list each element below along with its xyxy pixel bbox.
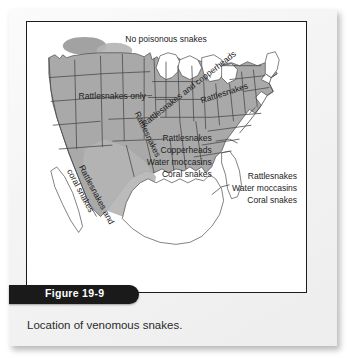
figure-number-badge: Figure 19-9 [9, 285, 139, 304]
map-label-southeast-line-3: Water moccasins [147, 157, 212, 167]
region-white-south-border [122, 175, 223, 244]
map-label-florida-line-3: Coral snakes [247, 195, 297, 205]
figure-caption: Location of venomous snakes. [27, 319, 327, 331]
map-label-florida-line-2: Water moccasins [232, 183, 297, 193]
us-venomous-snake-map: No poisonous snakes Rattlesnakes only Ra… [27, 22, 306, 292]
map-label-florida-line-1: Rattlesnakes [248, 171, 297, 181]
figure-number-label: Figure 19-9 [45, 287, 104, 299]
screenshot-root: No poisonous snakes Rattlesnakes only Ra… [0, 0, 347, 358]
map-label-no-poisonous-snakes: No poisonous snakes [125, 34, 206, 44]
map-label-southeast-line-1: Rattlesnakes [162, 133, 211, 143]
map-label-southeast-line-4: Coral snakes [162, 169, 212, 179]
figure-panel: No poisonous snakes Rattlesnakes only Ra… [9, 9, 337, 346]
map-frame: No poisonous snakes Rattlesnakes only Ra… [26, 21, 307, 293]
map-label-rattlesnakes-only: Rattlesnakes only [79, 91, 147, 101]
map-label-florida-block: Rattlesnakes Water moccasins Coral snake… [232, 171, 297, 205]
map-label-southeast-line-2: Copperheads [161, 145, 212, 155]
